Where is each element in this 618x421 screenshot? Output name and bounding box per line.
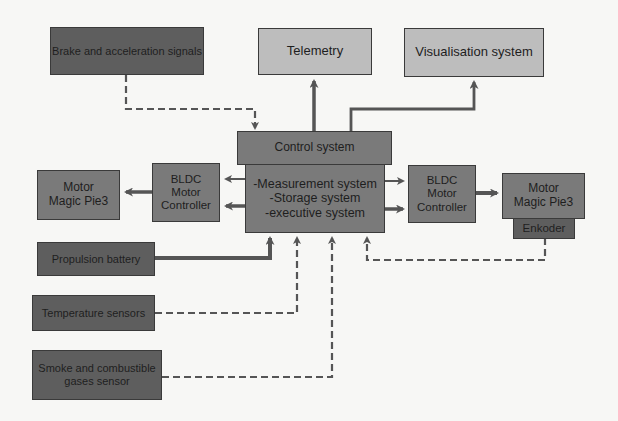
wire-control-to-visualisation bbox=[351, 82, 474, 131]
visualisation-block: Visualisation system bbox=[404, 28, 544, 77]
bldc-left-line1: BLDC bbox=[171, 173, 202, 186]
motor-left-line1: Motor bbox=[63, 181, 94, 195]
propulsion-battery-label: Propulsion battery bbox=[52, 253, 141, 266]
smoke-sensor-block: Smoke and combustible gases sensor bbox=[32, 350, 162, 400]
motor-right-line2: Magic Pie3 bbox=[514, 196, 573, 210]
control-system-block: Control system bbox=[237, 131, 392, 165]
smoke-sensor-line2: gases sensor bbox=[64, 375, 129, 388]
brake-acceleration-label: Brake and acceleration signals bbox=[52, 45, 202, 58]
smoke-sensor-line1: Smoke and combustible bbox=[38, 362, 155, 375]
encoder-block: Enkoder bbox=[513, 218, 575, 239]
temperature-sensors-block: Temperature sensors bbox=[32, 295, 155, 331]
propulsion-battery-block: Propulsion battery bbox=[37, 242, 155, 276]
bldc-right-line2: Motor bbox=[427, 187, 456, 200]
motor-right-line1: Motor bbox=[528, 182, 559, 196]
motor-left-block: Motor Magic Pie3 bbox=[37, 170, 120, 220]
wire-encoder-to-measurement bbox=[367, 238, 545, 260]
executive-label: -executive system bbox=[265, 206, 365, 220]
measurement-label: -Measurement system bbox=[253, 177, 377, 191]
telemetry-label: Telemetry bbox=[287, 44, 343, 59]
bldc-controller-right-block: BLDC Motor Controller bbox=[408, 165, 476, 223]
bldc-right-line1: BLDC bbox=[427, 174, 458, 187]
motor-right-block: Motor Magic Pie3 bbox=[502, 173, 585, 219]
wire-brake-to-control bbox=[126, 75, 255, 128]
motor-left-line2: Magic Pie3 bbox=[49, 195, 108, 209]
bldc-controller-left-block: BLDC Motor Controller bbox=[152, 163, 220, 222]
storage-label: -Storage system bbox=[269, 191, 360, 205]
bldc-right-line3: Controller bbox=[417, 201, 467, 214]
temperature-sensors-label: Temperature sensors bbox=[42, 307, 145, 320]
wire-temperature-to-measurement bbox=[155, 238, 297, 313]
measurement-block: -Measurement system -Storage system -exe… bbox=[245, 164, 385, 233]
telemetry-block: Telemetry bbox=[258, 28, 372, 75]
brake-acceleration-block: Brake and acceleration signals bbox=[50, 27, 204, 75]
control-system-label: Control system bbox=[274, 141, 354, 155]
wire-battery-to-measurement bbox=[155, 238, 270, 258]
visualisation-label: Visualisation system bbox=[415, 45, 533, 60]
bldc-left-line2: Motor bbox=[171, 186, 200, 199]
encoder-label: Enkoder bbox=[523, 222, 566, 235]
bldc-left-line3: Controller bbox=[161, 199, 211, 212]
